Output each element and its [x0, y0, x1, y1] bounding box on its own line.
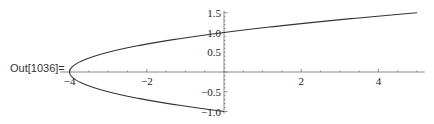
x-tick-label: −4 [64, 75, 76, 87]
y-tick-label: −1.0 [201, 106, 221, 118]
x-tick-label: 4 [376, 75, 382, 87]
y-tick-label: −0.5 [201, 86, 221, 98]
y-tick-label: 1.0 [207, 27, 221, 39]
x-tick-label: 2 [298, 75, 304, 87]
plot-area: −4−2241.51.00.5−0.5−1.0 [0, 0, 434, 124]
y-tick-label: 0.5 [207, 46, 221, 58]
y-tick-label: 1.5 [207, 7, 221, 19]
x-tick-label: −2 [141, 75, 153, 87]
parabola-curve [70, 13, 417, 112]
